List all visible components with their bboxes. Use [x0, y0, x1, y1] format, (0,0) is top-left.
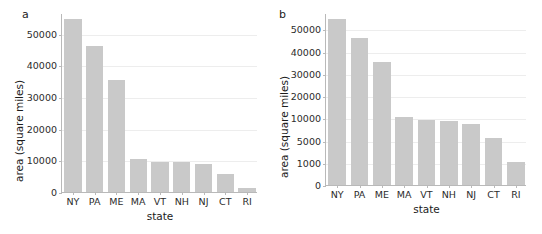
- x-axis-tick-label-me: ME: [375, 190, 389, 200]
- y-axis-tick: [59, 66, 62, 67]
- x-axis-tick: [73, 192, 74, 195]
- x-axis-tick: [225, 192, 226, 195]
- y-axis-tick-label: 40000: [291, 48, 321, 58]
- x-axis-tick: [182, 192, 183, 195]
- bar-me: [373, 62, 391, 185]
- x-axis-tick-label-pa: PA: [354, 190, 366, 200]
- bar-pa: [351, 38, 369, 185]
- y-axis-tick: [323, 97, 326, 98]
- bar-me: [108, 80, 125, 192]
- gridline: [62, 35, 257, 36]
- bar-ct: [485, 138, 503, 185]
- x-axis-tick: [160, 192, 161, 195]
- plot-area-a: 01000020000300004000050000NYPAMEMAVTNHNJ…: [61, 14, 257, 193]
- y-axis-tick-label: 40000: [27, 62, 57, 72]
- gridline: [326, 30, 526, 31]
- bar-nj: [462, 124, 480, 185]
- y-axis-tick-label: 0: [315, 181, 321, 191]
- y-axis-title-a: area (square miles): [14, 80, 25, 182]
- y-axis-tick: [323, 119, 326, 120]
- y-axis-tick-label: 50000: [291, 26, 321, 36]
- x-axis-tick: [404, 185, 405, 188]
- y-axis-tick: [323, 53, 326, 54]
- bar-vt: [418, 120, 436, 185]
- y-axis-tick: [59, 193, 62, 194]
- y-axis-title-b: area (square miles): [279, 76, 290, 178]
- panel-label-a: a: [22, 9, 29, 20]
- y-axis-tick-label: 0: [51, 188, 57, 198]
- x-axis-tick-label-me: ME: [109, 197, 123, 207]
- bar-nh: [173, 162, 190, 192]
- y-axis-tick: [323, 164, 326, 165]
- x-axis-tick: [138, 192, 139, 195]
- bar-pa: [86, 46, 103, 192]
- x-axis-title: state: [413, 204, 440, 215]
- x-axis-tick-label-ri: RI: [242, 197, 251, 207]
- y-axis-tick: [323, 30, 326, 31]
- x-axis-title: state: [147, 211, 174, 222]
- panel-b: b 0100050001000020000300004000050000NYPA…: [271, 0, 542, 234]
- x-axis-tick-label-ct: CT: [219, 197, 231, 207]
- x-axis-tick: [449, 185, 450, 188]
- x-axis-tick: [247, 192, 248, 195]
- y-axis-tick: [323, 75, 326, 76]
- x-axis-tick-label-ny: NY: [331, 190, 344, 200]
- x-axis-tick: [360, 185, 361, 188]
- y-axis-tick-label: 1000: [297, 159, 321, 169]
- bar-ri: [507, 162, 525, 185]
- y-axis-tick-label: 30000: [27, 93, 57, 103]
- y-axis-tick-label: 20000: [291, 92, 321, 102]
- x-axis-tick-label-pa: PA: [89, 197, 101, 207]
- x-axis-tick: [204, 192, 205, 195]
- x-axis-tick: [95, 192, 96, 195]
- x-axis-tick-label-ma: MA: [397, 190, 412, 200]
- bar-nh: [440, 121, 458, 185]
- figure-two-panel-bar-charts: a 01000020000300004000050000NYPAMEMAVTNH…: [0, 0, 542, 234]
- panel-label-b: b: [279, 9, 286, 20]
- bar-vt: [151, 162, 168, 192]
- x-axis-tick-label-vt: VT: [154, 197, 166, 207]
- y-axis-tick: [59, 98, 62, 99]
- x-axis-tick-label-vt: VT: [420, 190, 432, 200]
- x-axis-tick: [427, 185, 428, 188]
- x-axis-tick-label-ct: CT: [487, 190, 499, 200]
- x-axis-tick: [471, 185, 472, 188]
- y-axis-tick-label: 10000: [291, 115, 321, 125]
- x-axis-tick-label-nh: NH: [175, 197, 189, 207]
- x-axis-tick-label-nj: NJ: [199, 197, 209, 207]
- y-axis-tick-label: 5000: [297, 137, 321, 147]
- panel-a: a 01000020000300004000050000NYPAMEMAVTNH…: [0, 0, 271, 234]
- y-axis-tick: [323, 186, 326, 187]
- x-axis-tick-label-ri: RI: [511, 190, 520, 200]
- y-axis-tick: [59, 35, 62, 36]
- bar-ct: [217, 174, 234, 192]
- x-axis-tick-label-nj: NJ: [466, 190, 476, 200]
- bar-ma: [130, 159, 147, 192]
- x-axis-tick: [494, 185, 495, 188]
- x-axis-tick: [337, 185, 338, 188]
- y-axis-tick: [59, 130, 62, 131]
- x-axis-tick: [116, 192, 117, 195]
- y-axis-tick-label: 50000: [27, 30, 57, 40]
- bar-ma: [395, 117, 413, 185]
- y-axis-tick-label: 20000: [27, 125, 57, 135]
- y-axis-tick-label: 10000: [27, 157, 57, 167]
- bar-ny: [64, 19, 81, 192]
- bar-nj: [195, 164, 212, 192]
- plot-area-b: 0100050001000020000300004000050000NYPAME…: [325, 14, 526, 186]
- x-axis-tick-label-nh: NH: [442, 190, 456, 200]
- bar-ny: [328, 19, 346, 185]
- x-axis-tick-label-ny: NY: [66, 197, 79, 207]
- y-axis-tick: [59, 161, 62, 162]
- y-axis-tick: [323, 142, 326, 143]
- y-axis-tick-label: 30000: [291, 70, 321, 80]
- x-axis-tick: [382, 185, 383, 188]
- x-axis-tick-label-ma: MA: [131, 197, 146, 207]
- x-axis-tick: [516, 185, 517, 188]
